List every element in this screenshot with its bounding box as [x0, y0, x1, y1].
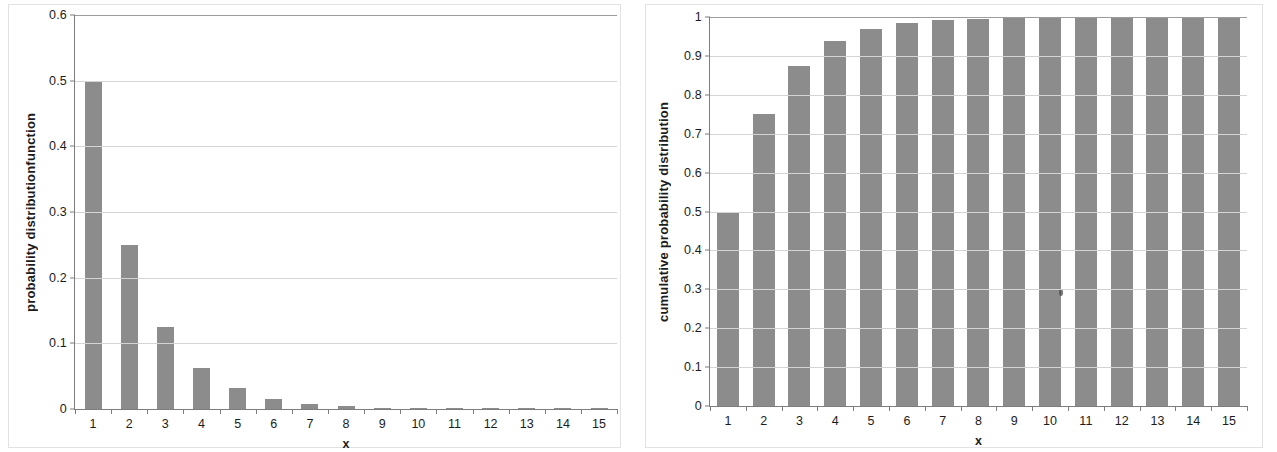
y-tick-mark-pmf — [70, 15, 75, 16]
y-tick-label-cdf: 0.3 — [684, 282, 702, 296]
panel-probability-distribution-function: probability distributionfunction 1234567… — [8, 4, 621, 448]
bar — [717, 212, 739, 407]
gridline-pmf — [75, 15, 617, 16]
x-tick-label: 14 — [556, 417, 570, 431]
y-tick-label-cdf: 0.1 — [684, 360, 702, 374]
x-tick-label: 1 — [724, 414, 731, 428]
y-tick-label-cdf: 0.7 — [684, 127, 702, 141]
x-tick-label: 2 — [126, 417, 133, 431]
plot-area-cdf: 123456789101112131415 x 00.10.20.30.40.5… — [709, 17, 1247, 407]
gridline-pmf — [75, 81, 617, 82]
x-tick-mark — [1140, 406, 1141, 411]
bar — [157, 327, 174, 409]
x-tick-label: 6 — [270, 417, 277, 431]
y-tick-label-cdf: 0.6 — [684, 166, 702, 180]
x-axis-title-left: x — [343, 437, 350, 451]
x-tick-mark — [889, 406, 890, 411]
y-axis-title-right: cumulative probability distribution — [656, 17, 671, 407]
x-tick-mark — [400, 409, 401, 414]
x-tick-mark — [183, 409, 184, 414]
x-tick-mark — [1068, 406, 1069, 411]
x-tick-mark — [1175, 406, 1176, 411]
x-tick-mark — [436, 409, 437, 414]
x-tick-label: 13 — [520, 417, 534, 431]
x-tick-label: 12 — [1115, 414, 1129, 428]
x-tick-label: 14 — [1186, 414, 1200, 428]
y-tick-mark-pmf — [70, 343, 75, 344]
x-tick-mark — [75, 409, 76, 414]
y-tick-label-pmf: 0.2 — [49, 271, 67, 285]
gridline-cdf — [710, 134, 1247, 135]
x-tick-label: 8 — [975, 414, 982, 428]
x-tick-label: 9 — [1011, 414, 1018, 428]
y-tick-label-pmf: 0.4 — [49, 139, 67, 153]
x-tick-mark — [853, 406, 854, 411]
y-tick-label-pmf: 0.1 — [49, 336, 67, 350]
x-tick-mark — [473, 409, 474, 414]
x-tick-label: 13 — [1151, 414, 1165, 428]
x-tick-mark — [364, 409, 365, 414]
y-tick-mark-pmf — [70, 146, 75, 147]
bar — [932, 20, 954, 406]
x-tick-label: 7 — [306, 417, 313, 431]
y-tick-mark-pmf — [70, 212, 75, 213]
bar — [410, 408, 427, 409]
x-tick-mark — [220, 409, 221, 414]
bar — [860, 29, 882, 406]
bar — [788, 66, 810, 406]
x-tick-label: 3 — [796, 414, 803, 428]
y-tick-mark-cdf — [705, 211, 710, 212]
x-tick-mark — [545, 409, 546, 414]
x-tick-mark — [111, 409, 112, 414]
plot-area-pmf: 123456789101112131415 x 00.10.20.30.40.5… — [74, 15, 617, 410]
bar — [554, 408, 571, 409]
x-tick-label: 10 — [411, 417, 425, 431]
y-tick-label-cdf: 1 — [695, 10, 702, 24]
y-tick-label-pmf: 0.5 — [49, 74, 67, 88]
x-tick-mark — [509, 409, 510, 414]
x-tick-mark — [1032, 406, 1033, 411]
x-tick-label: 6 — [903, 414, 910, 428]
y-tick-mark-pmf — [70, 80, 75, 81]
x-tick-mark — [581, 409, 582, 414]
gridline-cdf — [710, 289, 1247, 290]
y-tick-label-pmf: 0.6 — [49, 8, 67, 22]
x-tick-label: 5 — [868, 414, 875, 428]
gridline-cdf — [710, 95, 1247, 96]
gridline-cdf — [710, 173, 1247, 174]
bar — [446, 408, 463, 409]
x-tick-mark — [996, 406, 997, 411]
bar — [824, 41, 846, 406]
x-tick-label: 2 — [760, 414, 767, 428]
x-tick-mark — [1104, 406, 1105, 411]
x-tick-label: 15 — [1222, 414, 1236, 428]
y-tick-mark-cdf — [705, 367, 710, 368]
y-tick-label-cdf: 0.5 — [684, 205, 702, 219]
x-tick-mark — [1211, 406, 1212, 411]
gridline-cdf — [710, 250, 1247, 251]
gridline-cdf — [710, 56, 1247, 57]
y-tick-mark-cdf — [705, 328, 710, 329]
x-tick-label: 4 — [832, 414, 839, 428]
y-tick-label-pmf: 0.3 — [49, 205, 67, 219]
y-tick-label-cdf: 0.9 — [684, 49, 702, 63]
bar — [338, 406, 355, 409]
x-tick-label: 7 — [939, 414, 946, 428]
x-tick-mark — [782, 406, 783, 411]
x-tick-mark — [817, 406, 818, 411]
gridline-cdf — [710, 328, 1247, 329]
gridline-pmf — [75, 343, 617, 344]
bar — [301, 404, 318, 409]
bar — [374, 408, 391, 409]
bar — [121, 245, 138, 409]
x-tick-label: 1 — [90, 417, 97, 431]
x-tick-label: 9 — [379, 417, 386, 431]
x-tick-mark — [292, 409, 293, 414]
x-tick-mark — [746, 406, 747, 411]
gridline-cdf — [710, 367, 1247, 368]
x-tick-label: 11 — [448, 417, 461, 431]
bar — [265, 399, 282, 409]
bar — [896, 23, 918, 406]
gridline-pmf — [75, 278, 617, 279]
y-tick-mark-cdf — [705, 55, 710, 56]
